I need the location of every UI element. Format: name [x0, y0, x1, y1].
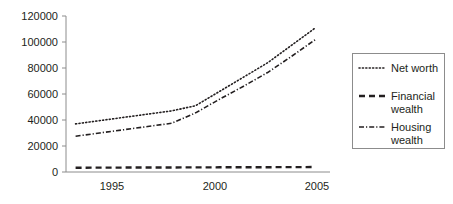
legend-label-housing-wealth-line1: Housing	[391, 121, 431, 133]
chart-container: 120000 100000 80000 60000 40000 20000 0 …	[0, 0, 453, 204]
y-tick-label-0: 0	[52, 166, 58, 178]
series-plot-area	[76, 28, 316, 168]
line-chart: 120000 100000 80000 60000 40000 20000 0 …	[0, 0, 453, 204]
series-line-net-worth	[76, 28, 316, 124]
legend-label-housing-wealth-line2: wealth	[390, 134, 423, 146]
series-line-housing-wealth	[76, 39, 316, 136]
y-tick-label-20000: 20000	[27, 140, 58, 152]
x-axis-group: 1995 2000 2005	[66, 172, 330, 192]
y-axis-group: 120000 100000 80000 60000 40000 20000 0	[21, 10, 66, 178]
legend-label-net-worth: Net worth	[391, 62, 438, 74]
legend: Net worth Financial wealth Housing wealt…	[353, 54, 445, 149]
legend-item-net-worth[interactable]: Net worth	[359, 62, 438, 74]
y-axis-tick-labels: 120000 100000 80000 60000 40000 20000 0	[21, 10, 58, 178]
series-line-financial-wealth	[76, 167, 316, 168]
x-tick-label-2005: 2005	[305, 180, 329, 192]
y-tick-label-120000: 120000	[21, 10, 58, 22]
legend-label-financial-wealth-line1: Financial	[391, 90, 435, 102]
legend-item-housing-wealth[interactable]: Housing wealth	[359, 121, 431, 146]
y-tick-label-60000: 60000	[27, 88, 58, 100]
y-tick-label-80000: 80000	[27, 62, 58, 74]
x-tick-label-2000: 2000	[203, 180, 227, 192]
legend-label-financial-wealth-line2: wealth	[390, 103, 423, 115]
y-axis-ticks	[62, 16, 66, 172]
y-tick-label-40000: 40000	[27, 114, 58, 126]
x-axis-tick-labels: 1995 2000 2005	[100, 180, 329, 192]
y-tick-label-100000: 100000	[21, 36, 58, 48]
legend-item-financial-wealth[interactable]: Financial wealth	[359, 90, 435, 115]
x-tick-label-1995: 1995	[100, 180, 124, 192]
